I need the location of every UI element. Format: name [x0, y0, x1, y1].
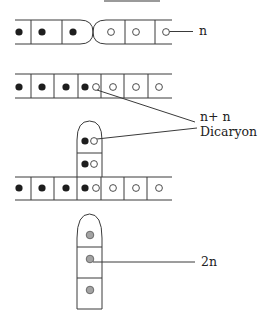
stage-2-fused-hypha — [15, 74, 172, 98]
nucleus-plus — [38, 184, 45, 191]
nucleus-plus — [15, 184, 22, 191]
nucleus-plus — [81, 137, 88, 144]
nucleus-minus — [110, 185, 117, 192]
haploid-label: n — [199, 23, 207, 38]
nucleus-minus — [93, 84, 100, 91]
nucleus-minus — [93, 185, 100, 192]
dikaryon-label-line2: Dicaryon — [200, 124, 257, 139]
nucleus-plus — [81, 160, 88, 167]
nucleus-plus — [62, 83, 69, 90]
nucleus-diploid — [86, 286, 94, 294]
nucleus-minus — [156, 185, 163, 192]
hyphae-diagram: n n+ n Dicaryon — [0, 0, 265, 326]
nucleus-plus — [81, 83, 88, 90]
nucleus-plus — [69, 28, 76, 35]
nucleus-diploid — [86, 255, 94, 263]
dikaryon-pointer-1 — [97, 90, 195, 122]
diagram-canvas: n n+ n Dicaryon — [0, 0, 265, 326]
nucleus-minus — [156, 84, 163, 91]
nucleus-diploid — [86, 231, 94, 239]
dikaryon-pointer-2 — [97, 128, 197, 139]
nucleus-plus — [81, 184, 88, 191]
nucleus-minus — [110, 84, 117, 91]
diploid-label: 2n — [201, 254, 217, 269]
nucleus-minus — [133, 84, 140, 91]
nucleus-plus — [62, 184, 69, 191]
stage-4-diploid-cells: 2n — [77, 214, 217, 309]
clipped-title — [104, 0, 160, 2]
nucleus-minus — [163, 29, 170, 36]
nucleus-minus — [133, 29, 140, 36]
nucleus-minus — [133, 185, 140, 192]
dikaryon-label-line1: n+ n — [200, 109, 231, 124]
nucleus-plus — [38, 28, 45, 35]
stage-1-hyphae-contact: n — [15, 20, 207, 44]
nucleus-minus — [91, 138, 98, 145]
nucleus-plus — [15, 28, 22, 35]
nucleus-plus — [15, 83, 22, 90]
nucleus-minus — [108, 29, 115, 36]
nucleus-minus — [91, 161, 98, 168]
nucleus-plus — [38, 83, 45, 90]
